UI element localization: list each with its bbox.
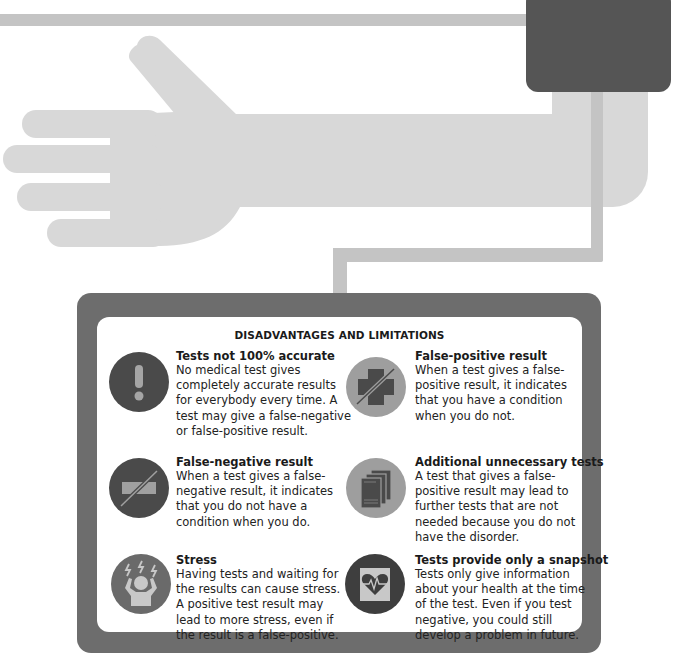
item-body: When a test gives a false-negative resul…	[176, 469, 351, 530]
item-body: When a test gives a false-positive resul…	[415, 363, 590, 424]
arm-cuff-illustration	[0, 0, 683, 300]
crossed-plus-icon	[346, 357, 406, 417]
item-body: Tests only give information about your h…	[415, 567, 590, 643]
item-title: Additional unnecessary tests	[415, 455, 604, 469]
heart-snapshot-icon	[345, 554, 405, 614]
item-title: Stress	[176, 553, 217, 567]
item-title: Tests not 100% accurate	[176, 349, 335, 363]
item-body: No medical test gives completely accurat…	[176, 363, 351, 439]
item-title: Tests provide only a snapshot	[415, 553, 608, 567]
exclamation-icon	[109, 352, 169, 412]
blood-pressure-cuff	[526, 0, 671, 92]
stressed-person-icon	[111, 554, 171, 614]
item-body: Having tests and waiting for the results…	[176, 567, 351, 643]
item-title: False-negative result	[176, 455, 313, 469]
top-tube	[0, 14, 535, 26]
crossed-minus-icon	[109, 458, 169, 518]
item-title: False-positive result	[415, 349, 547, 363]
panel-title: DISADVANTAGES AND LIMITATIONS	[97, 329, 582, 341]
documents-stack-icon	[346, 458, 406, 518]
item-body: A test that gives a false-positive resul…	[415, 469, 590, 545]
